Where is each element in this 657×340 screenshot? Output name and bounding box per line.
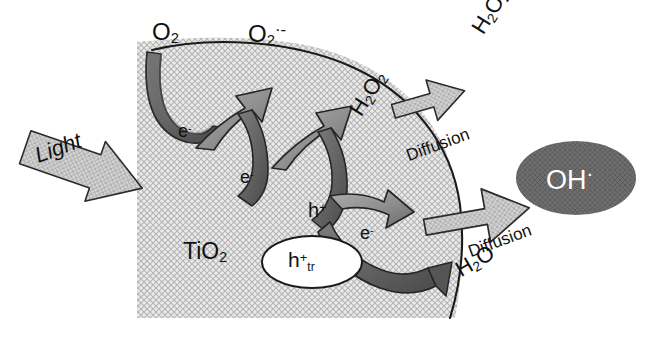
label-electron-1: e- (178, 122, 192, 140)
label-superoxide: O2·- (248, 22, 286, 48)
label-electron-3: e- (360, 224, 374, 242)
label-hole-trapped: h+tr (288, 248, 315, 274)
label-oh-radical: OH· (546, 162, 593, 196)
light-arrow (15, 118, 153, 218)
label-tio2: TiO2 (183, 240, 227, 264)
label-hole: h+ (308, 200, 326, 220)
label-o2: O2 (152, 20, 179, 46)
label-electron-2: e- (240, 168, 254, 186)
photocatalysis-diagram: O2 O2·- e- e- e- h+ h+tr TiO2 H2O2 H2O2 … (0, 0, 657, 340)
